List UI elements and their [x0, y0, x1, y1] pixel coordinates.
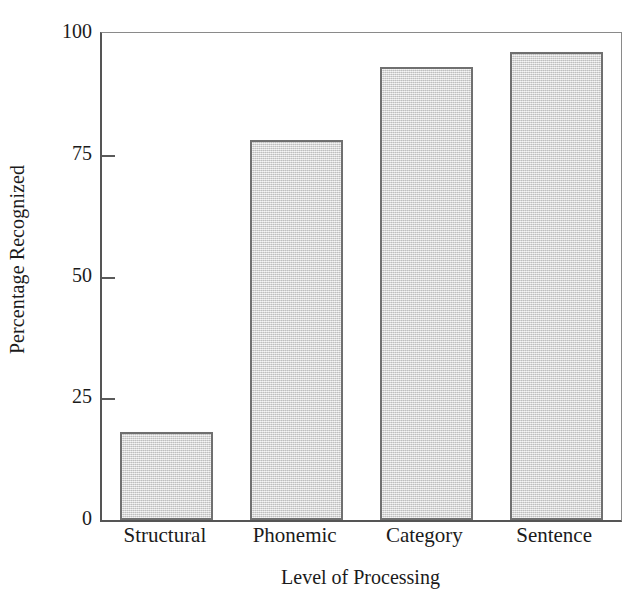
y-tick-label: 100 [40, 21, 92, 41]
bar-category [380, 67, 473, 520]
bar-phonemic [250, 140, 343, 520]
x-axis-tick-labels: StructuralPhonemicCategorySentence [100, 524, 621, 560]
y-tick-mark [102, 155, 115, 157]
bar-structural [120, 432, 213, 520]
bar-sentence [510, 52, 603, 520]
x-tick-label-sentence: Sentence [489, 524, 619, 547]
y-axis-tick-labels: 1007550250 [36, 0, 92, 609]
y-tick-label: 0 [40, 508, 92, 528]
x-tick-label-structural: Structural [100, 524, 230, 547]
y-tick-label: 75 [40, 143, 92, 163]
x-axis-title-text: Level of Processing [281, 566, 440, 588]
x-tick-label-phonemic: Phonemic [230, 524, 360, 547]
y-axis-title: Percentage Recognized [0, 0, 36, 519]
y-axis-title-text: Percentage Recognized [7, 165, 30, 354]
y-tick-mark [102, 398, 115, 400]
y-tick-label: 25 [40, 386, 92, 406]
x-tick-label-category: Category [360, 524, 490, 547]
bar-chart-figure: Percentage Recognized 1007550250 Structu… [0, 0, 639, 609]
plot-area [100, 32, 622, 522]
plot-inner [102, 33, 621, 520]
x-axis-title: Level of Processing [100, 566, 621, 589]
y-tick-label: 50 [40, 265, 92, 285]
y-tick-mark [102, 277, 115, 279]
